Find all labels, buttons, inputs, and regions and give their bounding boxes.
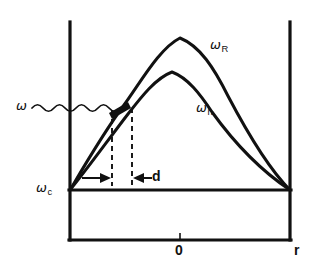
- omega-glyph-h: ω: [196, 100, 207, 115]
- incident-wave-squiggle: [32, 105, 120, 112]
- label-x-axis: r: [294, 243, 299, 257]
- omega-glyph-c: ω: [36, 180, 47, 195]
- label-distance-d: d: [152, 169, 161, 183]
- label-omega-r: ωR: [210, 38, 228, 51]
- distance-arrow-left-head: [100, 173, 111, 183]
- figure-container: ω ωR ωh ωc d 0 r: [0, 0, 310, 273]
- omega-glyph-r: ω: [210, 37, 221, 52]
- omega-subscript-c: c: [47, 187, 52, 197]
- diagram-canvas: [0, 0, 310, 273]
- label-omega-c: ωc: [36, 181, 52, 194]
- curve-omega-r: [70, 38, 290, 190]
- label-omega-incident: ω: [16, 99, 27, 112]
- distance-arrow-right-head: [133, 173, 144, 183]
- omega-glyph-incident: ω: [16, 98, 27, 113]
- omega-subscript-r: R: [221, 44, 228, 54]
- omega-subscript-h: h: [207, 107, 212, 117]
- label-omega-h: ωh: [196, 101, 212, 114]
- curve-omega-h: [70, 72, 290, 190]
- label-x-origin: 0: [175, 243, 183, 257]
